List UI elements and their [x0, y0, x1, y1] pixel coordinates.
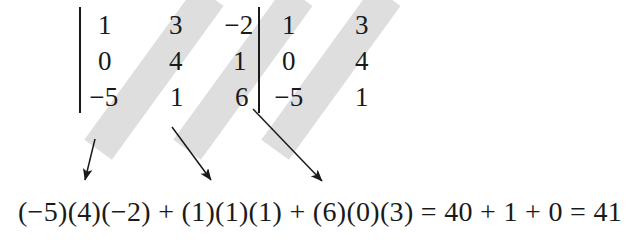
arrow-diagonal-3	[253, 109, 322, 181]
result-equation: (−5)(4)(−2) + (1)(1)(1) + (6)(0)(3) = 40…	[18, 198, 622, 226]
determinant-figure: 1 3 −2 1 3 0 4 1 0 4 −5 1 6 −5 1 (−5)(4)…	[0, 0, 626, 247]
arrow-diagonal-2	[172, 127, 211, 180]
arrow-diagonal-1	[85, 139, 95, 180]
